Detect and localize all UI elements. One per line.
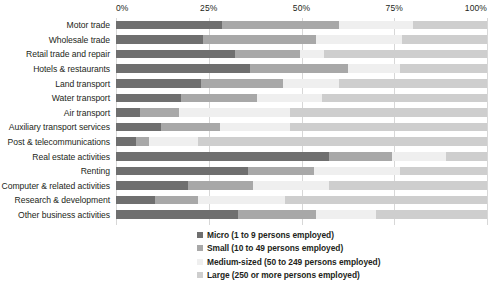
chart-row: Motor trade [0, 18, 502, 33]
legend-swatch-large [197, 272, 203, 278]
bar-segment-medium [392, 152, 446, 161]
category-label: Real estate activities [0, 152, 110, 162]
category-label: Water transport [0, 93, 110, 103]
bar-segment-small [203, 35, 316, 44]
chart-plot-area: Motor tradeWholesale tradeRetail trade a… [0, 18, 502, 222]
chart-row: Computer & related activities [0, 179, 502, 194]
bar-segment-large [290, 108, 487, 117]
chart-row: Other business activities [0, 208, 502, 223]
bar-segment-micro [116, 50, 235, 59]
category-label: Auxiliary transport services [0, 122, 110, 132]
legend-item: Micro (1 to 9 persons employed) [197, 228, 497, 242]
x-axis-tick-label: 25% [200, 3, 217, 13]
bar-segment-micro [116, 64, 250, 73]
bar-segment-medium [316, 210, 375, 219]
stacked-bar [116, 64, 487, 73]
stacked-bar [116, 79, 487, 88]
bar-segment-medium [339, 21, 413, 30]
chart-row: Auxiliary transport services [0, 120, 502, 135]
chart-row: Real estate activities [0, 149, 502, 164]
stacked-bar [116, 108, 487, 117]
bar-segment-medium [149, 137, 197, 146]
stacked-bar [116, 50, 487, 59]
bar-segment-micro [116, 123, 161, 132]
bar-segment-large [322, 94, 487, 103]
bar-segment-micro [116, 94, 181, 103]
bar-segment-micro [116, 181, 188, 190]
legend-label: Large (250 or more persons employed) [207, 270, 360, 280]
stacked-bar [116, 196, 487, 205]
legend-item: Small (10 to 49 persons employed) [197, 242, 497, 256]
category-label: Motor trade [0, 20, 110, 30]
x-axis-tick-label: 100% [465, 3, 487, 13]
bar-segment-medium [253, 181, 329, 190]
stacked-bar-chart: 0%25%50%75%100% Motor tradeWholesale tra… [0, 0, 502, 291]
bar-segment-medium [257, 94, 322, 103]
x-axis-tick-label: 50% [293, 3, 310, 13]
chart-row: Retail trade and repair [0, 47, 502, 62]
bar-segment-large [285, 196, 487, 205]
bar-segment-large [413, 21, 487, 30]
chart-row: Hotels & restaurants [0, 62, 502, 77]
bar-segment-small [250, 64, 348, 73]
bar-segment-medium [179, 108, 290, 117]
legend-item: Large (250 or more persons employed) [197, 269, 497, 283]
x-axis-tick-labels: 0%25%50%75%100% [116, 3, 487, 16]
stacked-bar [116, 137, 487, 146]
category-label: Renting [0, 166, 110, 176]
bar-segment-micro [116, 35, 203, 44]
chart-row: Wholesale trade [0, 33, 502, 48]
bar-segment-small [188, 181, 253, 190]
bar-segment-small [222, 21, 339, 30]
chart-row: Water transport [0, 91, 502, 106]
x-axis-tick-label: 0% [116, 3, 129, 13]
legend-item: Medium-sized (50 to 249 persons employed… [197, 255, 497, 269]
bar-segment-small [248, 167, 315, 176]
legend-label: Micro (1 to 9 persons employed) [207, 230, 334, 240]
bar-segment-medium [300, 50, 324, 59]
bar-segment-small [136, 137, 149, 146]
bar-segment-small [181, 94, 257, 103]
bar-segment-large [402, 35, 487, 44]
bar-segment-medium [314, 167, 399, 176]
category-label: Other business activities [0, 210, 110, 220]
bar-segment-micro [116, 79, 201, 88]
bar-segment-large [290, 123, 487, 132]
bar-segment-micro [116, 167, 248, 176]
category-label: Computer & related activities [0, 181, 110, 191]
bar-segment-micro [116, 152, 329, 161]
bar-segment-large [400, 64, 487, 73]
bar-segment-large [446, 152, 487, 161]
stacked-bar [116, 167, 487, 176]
bar-segment-large [339, 79, 487, 88]
bar-segment-medium [348, 64, 400, 73]
bar-segment-large [400, 167, 487, 176]
legend-swatch-small [197, 245, 203, 251]
chart-row: Post & telecommunications [0, 135, 502, 150]
bar-segment-large [376, 210, 487, 219]
category-label: Land transport [0, 79, 110, 89]
stacked-bar [116, 94, 487, 103]
bar-segment-large [324, 50, 487, 59]
chart-row: Air transport [0, 106, 502, 121]
x-axis-tick-label: 75% [386, 3, 403, 13]
bar-segment-micro [116, 137, 136, 146]
bar-segment-small [155, 196, 198, 205]
bar-segment-micro [116, 108, 140, 117]
stacked-bar [116, 152, 487, 161]
legend-label: Medium-sized (50 to 249 persons employed… [207, 257, 380, 267]
chart-row: Land transport [0, 76, 502, 91]
bar-segment-small [329, 152, 392, 161]
bar-segment-micro [116, 210, 238, 219]
chart-legend: Micro (1 to 9 persons employed)Small (10… [197, 228, 497, 282]
category-label: Retail trade and repair [0, 49, 110, 59]
stacked-bar [116, 123, 487, 132]
bar-segment-small [201, 79, 283, 88]
category-label: Wholesale trade [0, 35, 110, 45]
bar-segment-micro [116, 21, 222, 30]
stacked-bar [116, 21, 487, 30]
bar-segment-small [140, 108, 179, 117]
bar-segment-small [161, 123, 220, 132]
category-label: Post & telecommunications [0, 137, 110, 147]
category-label: Air transport [0, 108, 110, 118]
